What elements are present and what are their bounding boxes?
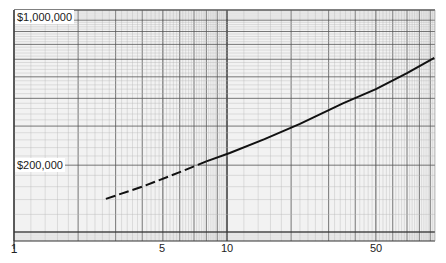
chart-grid (14, 10, 435, 249)
x-tick-50: 50 (370, 242, 382, 254)
x-tick-5: 5 (159, 242, 165, 254)
x-tick-10: 10 (221, 242, 233, 254)
x-tick-1: 1 (11, 242, 18, 256)
log-log-chart (0, 0, 446, 263)
y-label-top: $1,000,000 (15, 10, 74, 24)
y-label-mid: $200,000 (15, 158, 65, 172)
